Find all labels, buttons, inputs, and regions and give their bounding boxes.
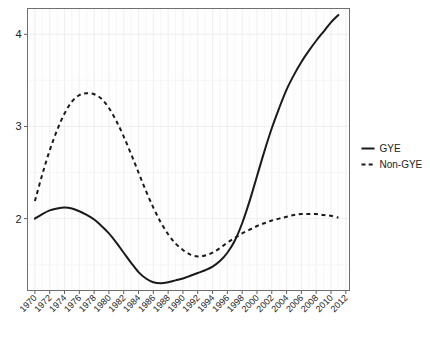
y-axis-tick-label: 3 [15, 120, 21, 132]
y-axis-tick-label: 2 [15, 213, 21, 225]
chart-figure: 234 197019721974197619781980198219841986… [0, 0, 430, 338]
chart-svg: 234 197019721974197619781980198219841986… [0, 0, 430, 338]
legend-label-non-gye: Non-GYE [380, 159, 423, 170]
legend-label-gye: GYE [380, 143, 401, 154]
y-axis-tick-label: 4 [15, 28, 21, 40]
